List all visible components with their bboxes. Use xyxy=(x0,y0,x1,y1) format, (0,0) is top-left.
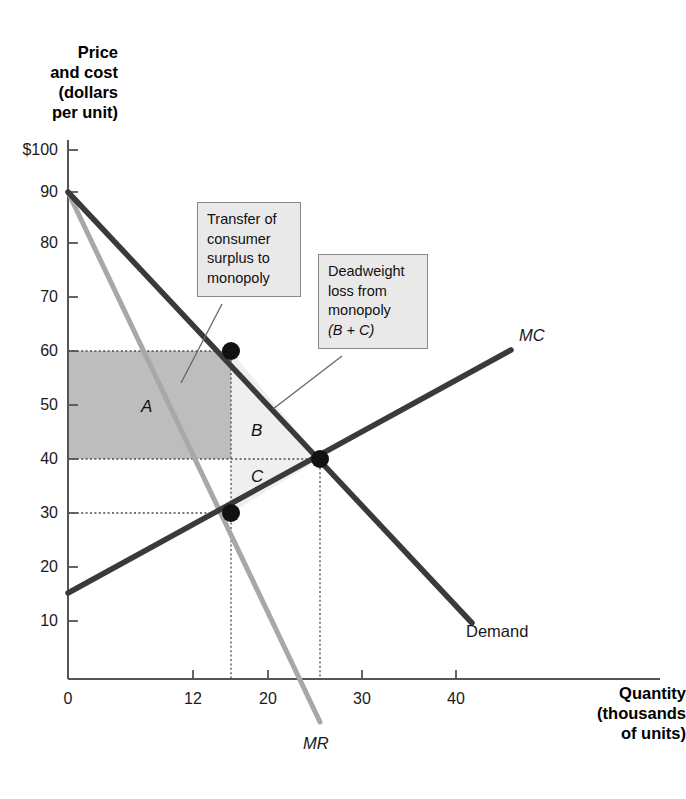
region-c-shape xyxy=(231,459,320,513)
y-tick-label-40: 40 xyxy=(0,450,58,468)
mc-curve-label: MC xyxy=(519,326,545,345)
x-tick-label-30: 30 xyxy=(342,690,382,708)
region-c-label: C xyxy=(251,467,263,487)
y-tick-label-20: 20 xyxy=(0,558,58,576)
point-monopoly-outcome xyxy=(222,342,240,360)
leader-line-deadweight xyxy=(273,356,342,409)
y-tick-label-90: 90 xyxy=(0,183,58,201)
callout-deadweight-text: Deadweight loss from monopoly xyxy=(328,263,405,318)
y-tick-label-80: 80 xyxy=(0,234,58,252)
x-axis-title: Quantity (thousands of units) xyxy=(500,683,686,743)
region-a-label: A xyxy=(141,397,152,417)
callout-transfer-text: Transfer of consumer surplus to monopoly xyxy=(207,211,277,286)
demand-curve-label: Demand xyxy=(466,622,528,641)
monopoly-deadweight-loss-figure: Price and cost (dollars per unit) Quanti… xyxy=(0,0,686,799)
callout-transfer-of-consumer-surplus: Transfer of consumer surplus to monopoly xyxy=(197,202,301,297)
y-tick-label-70: 70 xyxy=(0,288,58,306)
y-tick-label-100: $100 xyxy=(0,141,58,159)
callout-deadweight-loss: Deadweight loss from monopoly (B + C) xyxy=(318,254,428,349)
point-mr-equals-mc xyxy=(222,504,240,522)
x-tick-label-20: 20 xyxy=(248,690,288,708)
region-b-label: B xyxy=(251,421,262,441)
x-tick-label-12: 12 xyxy=(173,690,213,708)
point-competitive-equilibrium xyxy=(311,450,329,468)
y-tick-label-50: 50 xyxy=(0,396,58,414)
y-tick-label-10: 10 xyxy=(0,612,58,630)
mr-curve-label: MR xyxy=(303,734,329,753)
y-tick-label-60: 60 xyxy=(0,342,58,360)
x-tick-label-40: 40 xyxy=(436,690,476,708)
y-tick-label-30: 30 xyxy=(0,504,58,522)
x-tick-label-0: 0 xyxy=(48,690,88,708)
callout-deadweight-regions: (B + C) xyxy=(328,322,374,338)
x-axis-ticks xyxy=(193,670,456,679)
y-axis-title: Price and cost (dollars per unit) xyxy=(0,42,118,122)
